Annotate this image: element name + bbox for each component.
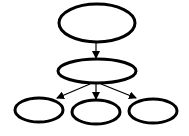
nodes bbox=[15, 4, 177, 124]
arrow-middle-to-leaf-right bbox=[101, 84, 136, 98]
node-middle bbox=[58, 59, 136, 83]
ellipse-leaf-right bbox=[129, 99, 177, 123]
arrow-middle-to-leaf-left bbox=[57, 84, 90, 98]
ellipse-root bbox=[59, 4, 135, 42]
node-root bbox=[59, 4, 135, 42]
node-leaf-center bbox=[72, 100, 120, 124]
tree-diagram bbox=[0, 0, 189, 136]
node-leaf-left bbox=[15, 98, 63, 122]
ellipse-leaf-left bbox=[15, 98, 63, 122]
node-leaf-right bbox=[129, 99, 177, 123]
ellipse-leaf-center bbox=[72, 100, 120, 124]
ellipse-middle bbox=[58, 59, 136, 83]
